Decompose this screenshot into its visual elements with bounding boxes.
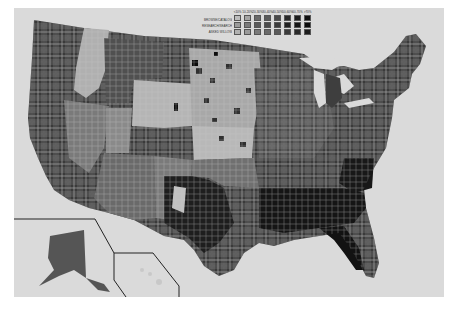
legend-column: 40-50% [274,9,281,36]
map-frame [14,8,444,297]
legend-swatch [234,22,241,28]
legend-swatch [294,29,301,35]
legend-swatch [274,29,281,35]
legend-swatch [274,15,281,21]
hawaii-inset [114,253,179,297]
legend-column: 20-30% [254,9,261,36]
legend-swatch [294,22,301,28]
legend-swatch [244,22,251,28]
legend-column: 30-40% [264,9,271,36]
legend-swatch [244,15,251,21]
legend-swatch [264,29,271,35]
legend-column: 10-20% [244,9,251,36]
legend-swatch [294,15,301,21]
legend-swatch [254,22,261,28]
legend-swatch [264,22,271,28]
legend-swatch [234,15,241,21]
map-legend: BROWSE/CATALOG RESEARCH/SEARCH ASKED WIL… [196,9,346,37]
legend-swatch [304,22,311,28]
legend-swatch [234,29,241,35]
legend-swatch [284,22,291,28]
legend-column: <10% [234,9,241,36]
legend-column: 50-60% [284,9,291,36]
legend-swatch [244,29,251,35]
us-county-map [14,8,444,297]
legend-swatch [304,29,311,35]
legend-row-label: ASKED WILLOW [196,29,232,35]
legend-column: 60-70% [294,9,301,36]
legend-column: >70% [304,9,311,36]
legend-swatch [274,22,281,28]
legend-swatch [254,15,261,21]
alaska-inset [14,218,114,297]
legend-swatch [304,15,311,21]
legend-swatch [254,29,261,35]
legend-swatch [264,15,271,21]
legend-swatch [284,15,291,21]
legend-swatch [284,29,291,35]
